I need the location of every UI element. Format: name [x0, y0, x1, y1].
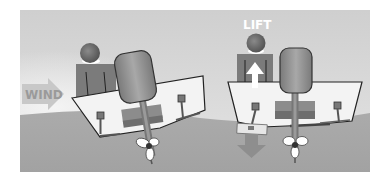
engine-cowl [113, 49, 158, 105]
lift-label: LIFT [243, 18, 272, 32]
wind-label: WIND [25, 88, 63, 102]
person-head [247, 34, 266, 53]
diagram-canvas: WIND [0, 0, 388, 181]
engine-cowl [280, 48, 312, 93]
person-head [80, 43, 100, 63]
